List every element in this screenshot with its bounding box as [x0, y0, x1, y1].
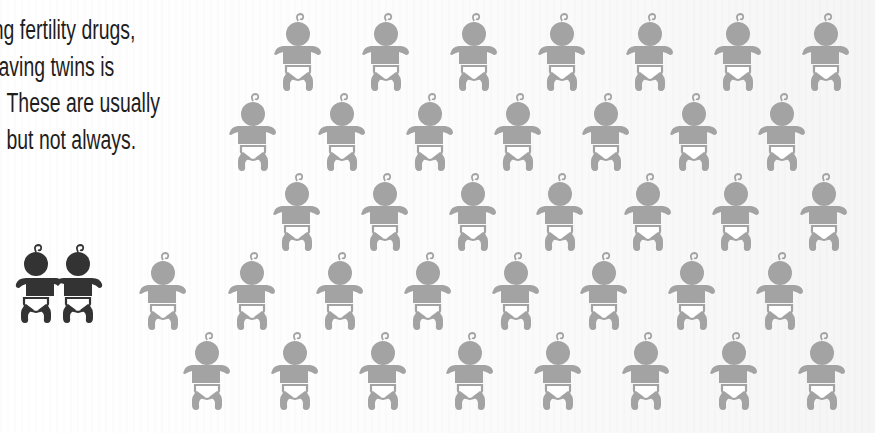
baby-icon: [712, 8, 764, 94]
baby-icon: [444, 327, 496, 413]
baby-icon: [316, 88, 368, 174]
baby-icon: [756, 88, 808, 174]
baby-icon: [534, 168, 586, 254]
baby-icon: [668, 88, 720, 174]
baby-icon: [359, 168, 411, 254]
baby-icon: [490, 247, 542, 333]
baby-icon: [181, 327, 233, 413]
baby-icon: [754, 247, 806, 333]
baby-icon: [578, 247, 630, 333]
baby-icon: [404, 88, 456, 174]
baby-icon: [796, 327, 848, 413]
caption-line-3: These are usually: [6, 85, 159, 122]
baby-icon: [226, 247, 278, 333]
baby-icon: [272, 8, 324, 94]
baby-icon: [447, 168, 499, 254]
baby-icon: [536, 8, 588, 94]
baby-icon: [492, 88, 544, 174]
baby-icon: [360, 8, 412, 94]
baby-icon: [798, 168, 850, 254]
baby-icon: [710, 168, 762, 254]
caption-text: ng fertility drugs, aving twins is These…: [0, 12, 160, 158]
caption-line-4: but not always.: [6, 122, 159, 159]
baby-icon: [532, 327, 584, 413]
baby-icon: [800, 8, 852, 94]
baby-icon: [137, 247, 189, 333]
caption-line-1: ng fertility drugs,: [0, 12, 160, 49]
caption-line-2: aving twins is: [0, 49, 160, 86]
baby-icon: [269, 327, 321, 413]
baby-icon: [357, 327, 409, 413]
baby-icon: [620, 327, 672, 413]
baby-icon: [314, 247, 366, 333]
baby-icon: [227, 88, 279, 174]
baby-icon: [271, 168, 323, 254]
baby-icon: [402, 247, 454, 333]
baby-icon: [624, 8, 676, 94]
baby-icon: [448, 8, 500, 94]
baby-icon: [622, 168, 674, 254]
baby-icon: [666, 247, 718, 333]
baby-icon: [580, 88, 632, 174]
twin-babies-icon: [10, 242, 104, 326]
baby-icon: [708, 327, 760, 413]
